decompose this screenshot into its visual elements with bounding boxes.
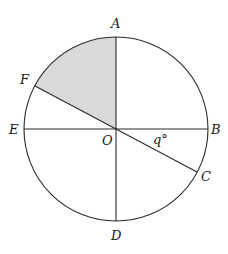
center-label-o: O [102,133,113,148]
point-label-a: A [110,16,120,31]
point-label-b: B [210,122,221,137]
circle-diagram: A B C D E F O q° [0,0,228,254]
point-label-d: D [110,228,122,243]
shaded-sector-aof [35,37,116,129]
angle-label-q: q° [153,132,168,147]
point-label-e: E [8,122,19,137]
point-label-c: C [201,169,211,184]
point-label-f: F [19,72,30,87]
